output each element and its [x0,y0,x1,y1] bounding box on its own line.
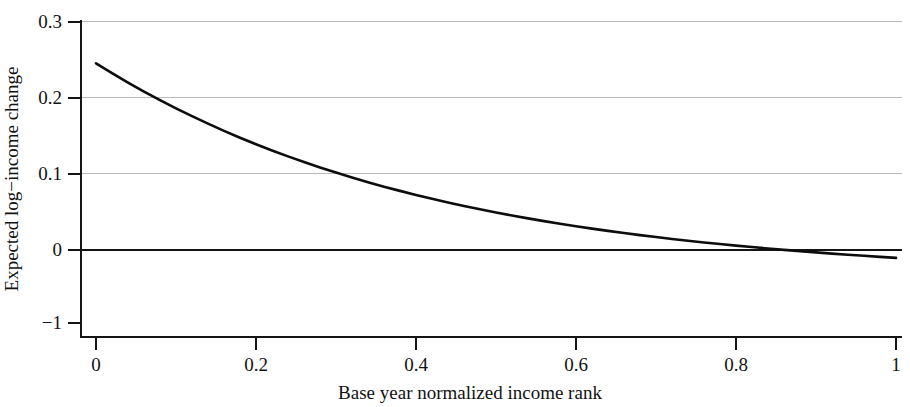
gridlines [80,22,902,174]
chart-figure: 0.3 0.2 0.1 0 −1 0 0.2 0.4 0.6 0.8 1 Bas [0,0,910,407]
y-tick-label-3: 0 [53,239,63,260]
y-tick-label-1: 0.2 [38,87,62,108]
y-tick-label-2: 0.1 [38,163,62,184]
x-tick-label-2: 0.4 [404,354,428,375]
x-tick-label-1: 0.2 [244,354,268,375]
y-axis-title: Expected log−income change [1,67,22,292]
x-tick-label-3: 0.6 [564,354,588,375]
x-axis-tick-labels: 0 0.2 0.4 0.6 0.8 1 [91,354,901,375]
x-tick-label-4: 0.8 [724,354,748,375]
series-line-expected-log-income-change [96,63,896,258]
x-tick-label-5: 1 [891,354,901,375]
line-chart: 0.3 0.2 0.1 0 −1 0 0.2 0.4 0.6 0.8 1 Bas [0,0,910,407]
y-axis-tick-labels: 0.3 0.2 0.1 0 −1 [38,11,62,333]
x-axis-ticks [96,337,896,350]
y-tick-label-4: −1 [42,312,62,333]
x-axis-title: Base year normalized income rank [338,382,602,403]
x-tick-label-0: 0 [91,354,101,375]
y-tick-label-0: 0.3 [38,11,62,32]
y-axis-ticks [68,22,81,323]
